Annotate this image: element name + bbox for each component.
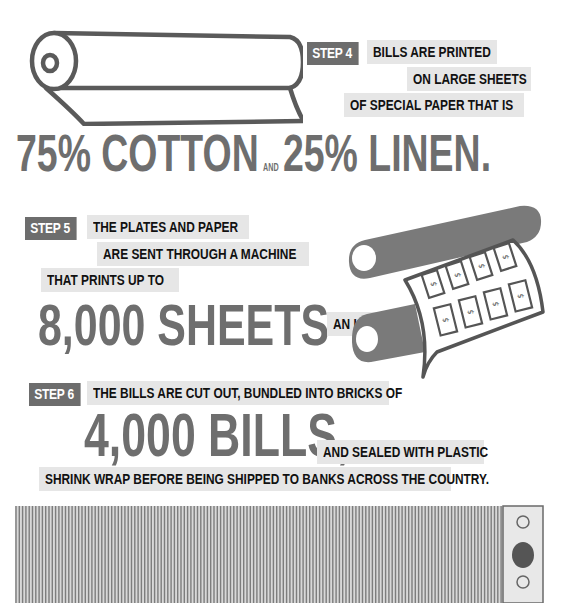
step-4-caption-line-3: OF SPECIAL PAPER THAT IS [344,93,524,117]
paper-roll-illustration [28,28,303,126]
and-connector: AND [263,162,279,173]
linen-percent: 25% LINEN. [283,124,491,182]
paper-roll-icon [28,28,303,126]
step-4-caption-line-1: BILLS ARE PRINTED [367,40,497,64]
printing-rollers-icon: $ $ $ $ $ $ $ $ [345,202,555,380]
step-6-headline: 4,000 BILLS, [84,404,349,466]
step-5-caption-line-2: ARE SENT THROUGH A MACHINE [97,242,309,266]
step-6-caption-line-2: AND SEALED WITH PLASTIC [317,440,484,464]
step-4-caption-line-2: ON LARGE SHEETS [407,67,531,91]
step-4-headline: 75% COTTONAND25% LINEN. [16,127,574,179]
step-5-caption-line-3: THAT PRINTS UP TO [41,268,179,292]
portrait-icon [512,542,534,568]
bill-brick-illustration [15,500,545,603]
step-5-headline: 8,000 SHEETS [38,296,329,354]
step-4-badge: STEP 4 [307,42,359,65]
stacked-bills-icon [15,500,545,603]
step-5-badge: STEP 5 [25,217,77,240]
step-6-badge: STEP 6 [29,383,81,406]
cotton-percent: 75% COTTON [16,124,259,182]
printing-press-illustration: $ $ $ $ $ $ $ $ [345,202,555,380]
step-5-caption-line-1: THE PLATES AND PAPER [87,215,249,239]
step-6-caption-line-3: SHRINK WRAP BEFORE BEING SHIPPED TO BANK… [39,467,451,491]
